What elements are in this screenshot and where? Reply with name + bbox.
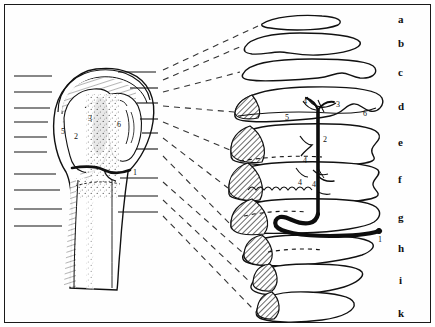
bone-number-1: 1 <box>133 169 137 177</box>
left-level-ticks <box>14 76 62 226</box>
section-c <box>242 59 375 81</box>
section-outline-a <box>262 15 341 30</box>
section-number-e-2: 2 <box>323 136 327 144</box>
transverse-sections <box>229 15 383 322</box>
section-number-d-6: 6 <box>363 110 367 118</box>
bone-coronal-section <box>54 68 154 294</box>
section-b <box>244 33 360 55</box>
slice-label-e: e <box>398 137 403 148</box>
slice-label-c: c <box>398 67 403 78</box>
section-d <box>235 87 383 122</box>
section-a <box>262 15 341 30</box>
slice-label-h: h <box>398 243 404 254</box>
section-f <box>229 162 379 203</box>
slice-label-k: k <box>398 308 404 319</box>
slice-label-d: d <box>398 101 404 112</box>
section-number-e-4: 4 <box>303 157 307 165</box>
section-outline-c <box>242 59 375 81</box>
section-number-f-4a: 4 <box>298 179 302 187</box>
section-number-f-4b: 4 <box>312 181 316 189</box>
slice-label-i: i <box>399 275 402 286</box>
slice-label-a: a <box>398 14 404 25</box>
section-number-d-5: 5 <box>285 114 289 122</box>
figure-canvas <box>0 0 435 327</box>
section-number-d-4: 4 <box>303 98 307 106</box>
slice-label-b: b <box>398 38 404 49</box>
leader-g <box>163 156 230 224</box>
section-hatch-k <box>257 292 279 319</box>
groove-stipple <box>86 94 120 176</box>
slice-label-f: f <box>398 174 402 185</box>
slice-label-g: g <box>398 212 404 223</box>
bone-number-2: 2 <box>74 133 78 141</box>
leader-a <box>163 26 258 70</box>
section-number-g-1: 1 <box>378 236 382 244</box>
leader-d <box>163 106 234 112</box>
bone-number-3: 3 <box>88 115 92 123</box>
bone-number-5: 5 <box>61 128 65 136</box>
bone-number-6: 6 <box>117 121 121 129</box>
anatomical-figure: a b c d e f g h i k 5 3 6 2 1 4 3 5 6 2 … <box>0 0 435 327</box>
section-outline-b <box>244 33 360 55</box>
vessel-terminal-dot <box>376 228 381 233</box>
section-i <box>251 264 363 295</box>
section-g <box>231 199 380 235</box>
section-k <box>256 292 354 322</box>
section-number-d-3: 3 <box>336 101 340 109</box>
section-h <box>243 235 374 266</box>
section-hatch-i <box>253 264 277 291</box>
